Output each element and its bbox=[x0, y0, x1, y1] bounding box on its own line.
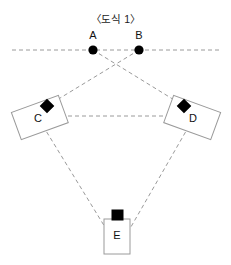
edge-d-to-e bbox=[128, 126, 189, 232]
edge-b-to-c bbox=[47, 50, 139, 106]
node-label-e: E bbox=[110, 229, 124, 241]
edge-a-to-d bbox=[93, 50, 184, 106]
point-dot-a bbox=[88, 45, 97, 54]
node-label-b: B bbox=[131, 29, 147, 41]
diagram-canvas: 〈도식 1〉 A B C D E bbox=[0, 0, 231, 265]
node-label-a: A bbox=[85, 29, 101, 41]
diagram-graphics bbox=[0, 0, 231, 265]
point-dot-b bbox=[134, 45, 143, 54]
edge-c-to-e bbox=[43, 126, 108, 232]
square-marker-e bbox=[112, 210, 123, 220]
node-label-c: C bbox=[31, 112, 45, 124]
node-label-d: D bbox=[186, 112, 200, 124]
